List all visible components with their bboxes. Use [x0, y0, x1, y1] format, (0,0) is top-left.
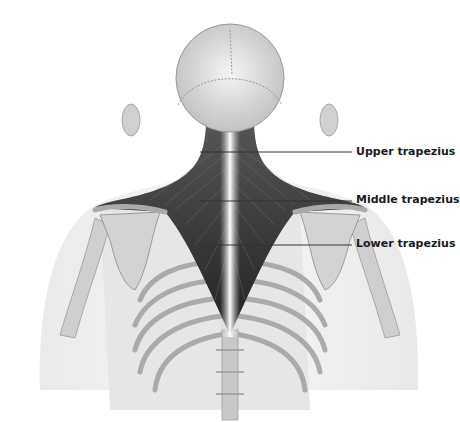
label-middle-trapezius: Middle trapezius — [356, 193, 460, 206]
trapezius-illustration — [0, 0, 460, 422]
label-upper-trapezius: Upper trapezius — [356, 145, 455, 158]
head — [122, 24, 338, 136]
label-lower-trapezius: Lower trapezius — [356, 237, 455, 250]
spinal-highlight — [220, 122, 240, 337]
